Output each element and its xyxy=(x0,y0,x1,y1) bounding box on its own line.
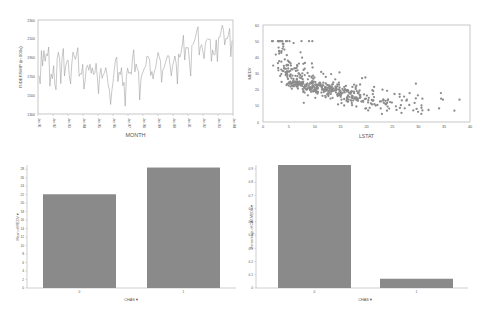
y-tick-label: 8 xyxy=(22,252,24,256)
data-point xyxy=(370,102,372,104)
x-tick-label: Jan-00 xyxy=(172,118,176,128)
data-point xyxy=(401,99,403,101)
data-point xyxy=(383,102,385,104)
data-point xyxy=(312,85,314,87)
data-point xyxy=(320,71,322,73)
y-tick-label: 1500 xyxy=(27,94,35,98)
data-point xyxy=(291,88,293,90)
data-point xyxy=(388,107,390,109)
data-point xyxy=(277,62,279,64)
x-axis-field-dropdown[interactable]: CHAS▼ xyxy=(358,298,372,302)
data-point xyxy=(286,40,288,42)
data-point xyxy=(295,67,297,69)
y-tick-label: 0.1 xyxy=(249,273,254,277)
data-point xyxy=(348,92,350,94)
data-point xyxy=(277,40,279,42)
data-point xyxy=(373,86,375,88)
data-point xyxy=(308,75,310,77)
y-tick-label: 40 xyxy=(255,56,259,60)
data-point xyxy=(421,109,423,111)
data-point xyxy=(304,91,306,93)
x-tick-label: 0 xyxy=(262,125,264,129)
data-point xyxy=(308,40,310,42)
data-point xyxy=(386,110,388,112)
data-point xyxy=(320,91,322,93)
data-point xyxy=(302,80,304,82)
x-tick-label: Jan-97 xyxy=(127,118,131,128)
data-point xyxy=(368,97,370,99)
medv-lstat-scatter-chart: 01020304050600510152025303540LSTATMEDV xyxy=(243,0,487,157)
x-axis-title: MONTH xyxy=(125,132,145,138)
data-point xyxy=(324,95,326,97)
data-point xyxy=(406,99,408,101)
data-point xyxy=(312,74,314,76)
data-point xyxy=(347,94,349,96)
data-point xyxy=(356,90,358,92)
y-tick-label: 60 xyxy=(255,24,259,28)
data-point xyxy=(287,78,289,80)
data-point xyxy=(302,69,304,71)
data-point xyxy=(372,99,374,101)
data-point xyxy=(323,91,325,93)
y-axis-field-dropdown[interactable]: Mean of MEDV▼ xyxy=(16,213,20,241)
data-point xyxy=(299,74,301,76)
y-tick-label: 22 xyxy=(20,193,24,197)
data-point xyxy=(386,90,388,92)
data-point xyxy=(381,89,383,91)
data-point xyxy=(415,108,417,110)
y-tick-label: 2 xyxy=(22,278,24,282)
data-point xyxy=(338,81,340,83)
line-chart-svg: 130015001700190021002300Jan-91Jan-92Jan-… xyxy=(0,0,243,157)
data-point xyxy=(284,58,286,60)
x-axis-field-dropdown[interactable]: CHAS▼ xyxy=(124,298,138,302)
data-point xyxy=(381,113,383,115)
data-point xyxy=(332,81,334,83)
data-point xyxy=(350,99,352,101)
x-tick-label: Jan-02 xyxy=(202,118,206,128)
data-point xyxy=(364,76,366,78)
data-point xyxy=(322,82,324,84)
y-axis-field-dropdown[interactable]: Percentage of CAT.MEDV▼ xyxy=(250,204,254,249)
data-point xyxy=(351,95,353,97)
data-point xyxy=(420,104,422,106)
data-point xyxy=(346,97,348,99)
data-point xyxy=(285,72,287,74)
x-tick-label: Jan-98 xyxy=(142,118,146,128)
data-point xyxy=(367,99,369,101)
x-tick-label: Jan-04 xyxy=(232,118,236,128)
x-tick-label: Jan-01 xyxy=(187,118,191,128)
y-tick-label: 0 xyxy=(257,121,259,125)
data-point xyxy=(438,107,440,109)
data-point xyxy=(369,107,371,109)
x-tick-label: 10 xyxy=(313,125,317,129)
data-point xyxy=(286,54,288,56)
data-point xyxy=(367,109,369,111)
data-point xyxy=(292,78,294,80)
data-point xyxy=(355,86,357,88)
data-point xyxy=(302,83,304,85)
data-point xyxy=(400,104,402,106)
ridership-line-chart: 130015001700190021002300Jan-91Jan-92Jan-… xyxy=(0,0,243,157)
data-point xyxy=(376,104,378,106)
pct-catmedv-bar-chart: 00.10.20.30.40.50.60.70.80.901CHAS▼Perce… xyxy=(243,157,487,314)
data-point xyxy=(339,90,341,92)
data-point xyxy=(296,75,298,77)
data-point xyxy=(300,40,302,42)
data-point xyxy=(285,84,287,86)
data-point xyxy=(373,96,375,98)
data-point xyxy=(313,76,315,78)
data-point xyxy=(310,91,312,93)
data-point xyxy=(277,69,279,71)
data-point xyxy=(335,89,337,91)
data-point xyxy=(301,75,303,77)
data-point xyxy=(371,89,373,91)
data-point xyxy=(291,82,293,84)
data-point xyxy=(278,51,280,53)
data-point xyxy=(314,97,316,99)
y-tick-label: 1900 xyxy=(27,56,35,60)
y-tick-label: 20 xyxy=(20,201,24,205)
data-point xyxy=(355,105,357,107)
data-point xyxy=(280,81,282,83)
data-point xyxy=(364,107,366,109)
data-point xyxy=(387,99,389,101)
